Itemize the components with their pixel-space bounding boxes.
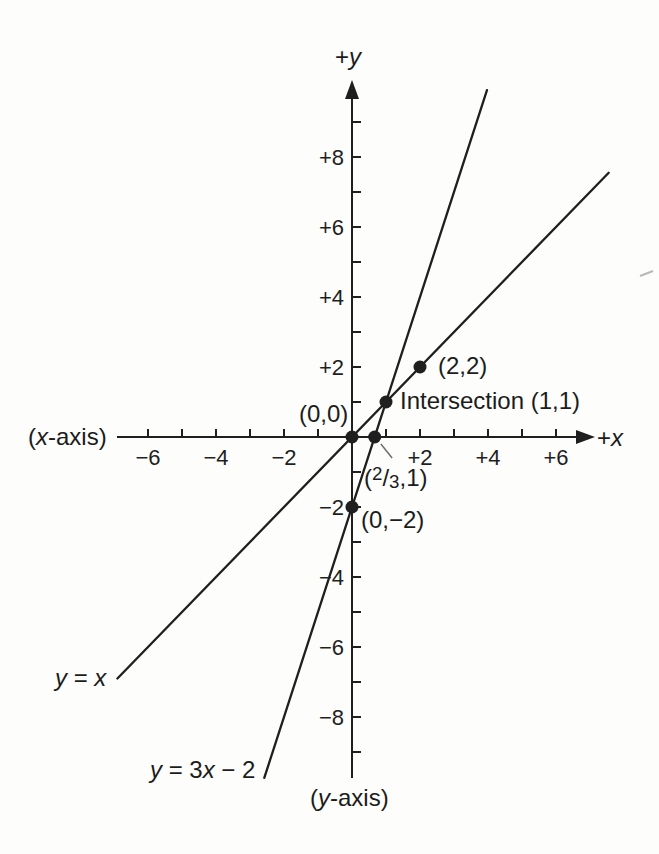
y-variable: y [150, 756, 162, 783]
y-variable: y [55, 664, 67, 691]
x-axis-right-label: +x [597, 425, 623, 451]
y-axis-top-label: +y [335, 44, 361, 70]
point-two-thirds-label: (2/3,1) [364, 461, 428, 495]
figure: −6−4−2+2+4+6+8+6+4+2−2−4−6−8 +y +x (x-ax… [0, 0, 659, 854]
line-y-equals-x [117, 173, 608, 679]
x-variable: x [36, 423, 48, 450]
x-tick-label: −4 [203, 445, 228, 470]
equals-coefficient: = 3 [162, 756, 203, 783]
equals: = [67, 664, 94, 691]
leader-line [381, 444, 392, 458]
y-tick-label: −2 [319, 495, 344, 520]
x-tick-label: +6 [543, 445, 568, 470]
x-tick-label: +4 [475, 445, 500, 470]
point-0-neg2-label: (0,−2) [361, 507, 424, 533]
x-variable: x [611, 424, 623, 451]
suffix: -axis) [48, 423, 107, 450]
y-tick-label: +4 [319, 285, 344, 310]
constant-term: − 2 [215, 756, 256, 783]
point-2-2-label: (2,2) [438, 353, 487, 379]
fraction-numerator: 2 [372, 463, 382, 484]
y-tick-label: −8 [319, 705, 344, 730]
x-tick-label: −2 [271, 445, 296, 470]
x-axis-name-label: (x-axis) [28, 424, 107, 450]
fraction-denominator: 3 [389, 471, 399, 492]
origin-label: (0,0) [299, 401, 348, 427]
suffix: ,1) [399, 464, 427, 491]
data-point [414, 361, 427, 374]
y-axis-name-label: (y-axis) [310, 785, 389, 811]
y-tick-label: +6 [319, 215, 344, 240]
intersection-label: Intersection (1,1) [400, 388, 580, 414]
y-variable: y [318, 784, 330, 811]
x-variable: x [94, 664, 106, 691]
y-tick-label: +8 [319, 145, 344, 170]
y-tick-label: +2 [319, 355, 344, 380]
line2-equation-label: y = 3x − 2 [150, 757, 255, 783]
data-point [346, 501, 359, 514]
y-tick-label: −6 [319, 635, 344, 660]
paren: ( [310, 784, 318, 811]
line1-equation-label: y = x [55, 665, 106, 691]
scan-artifact-dash [640, 271, 653, 276]
y-variable: y [349, 43, 361, 70]
x-axis-arrowhead [576, 430, 595, 444]
plus-sign: + [335, 43, 349, 70]
suffix: -axis) [330, 784, 389, 811]
paren: ( [364, 464, 372, 491]
x-variable: x [203, 756, 215, 783]
data-point [380, 396, 393, 409]
y-axis-arrowhead [345, 80, 359, 99]
x-tick-label: −6 [135, 445, 160, 470]
data-point [368, 431, 381, 444]
data-point [346, 431, 359, 444]
paren: ( [28, 423, 36, 450]
plus-sign: + [597, 424, 611, 451]
